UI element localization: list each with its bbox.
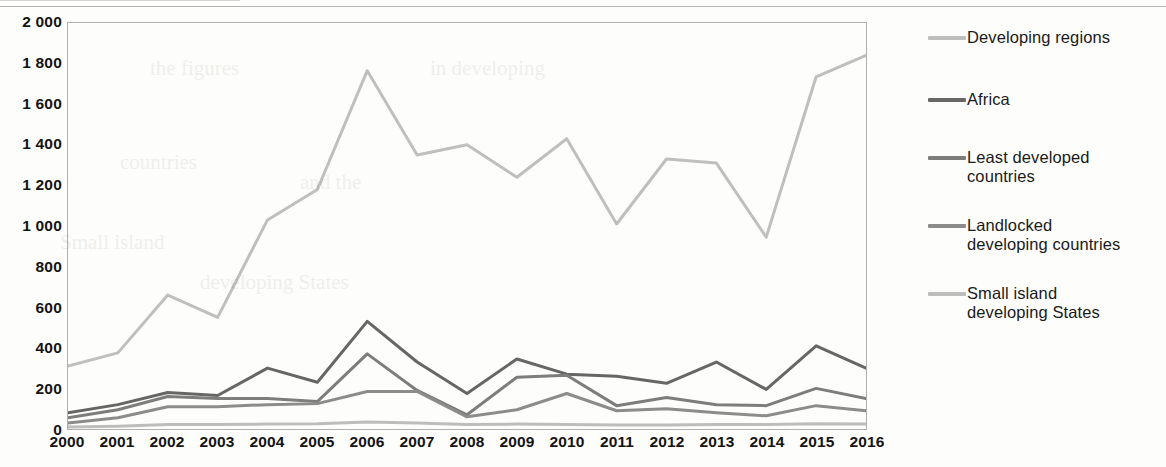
- legend-item-label: Landlocked developing countries: [967, 216, 1120, 253]
- x-axis-tick-label: 2011: [600, 433, 634, 450]
- y-axis-tick-label: 1 400: [4, 137, 62, 153]
- legend-item[interactable]: Africa: [928, 90, 1010, 109]
- x-axis-tick-label: 2003: [200, 433, 235, 450]
- legend-item-label: Developing regions: [967, 28, 1110, 47]
- x-axis-tick-label: 2013: [700, 433, 735, 450]
- y-axis-tick-label: 2 000: [4, 14, 62, 30]
- x-axis-tick-label: 2005: [300, 433, 335, 450]
- y-axis-tick-label: 600: [4, 300, 62, 316]
- x-axis: 2000200120022003200420052006200720082009…: [67, 433, 867, 461]
- y-axis-tick-label: 400: [4, 341, 62, 357]
- series-line: [68, 55, 866, 366]
- legend-item-label: Small island developing States: [967, 284, 1100, 321]
- legend-item[interactable]: Landlocked developing countries: [928, 216, 1120, 253]
- x-axis-tick-label: 2016: [850, 433, 885, 450]
- legend-item-label: Least developed countries: [967, 148, 1090, 185]
- legend-line-swatch: [928, 98, 966, 102]
- y-axis-tick-label: 1 800: [4, 55, 62, 71]
- series-line: [68, 422, 866, 427]
- y-axis-tick-label: 800: [4, 259, 62, 275]
- x-axis-tick-label: 2008: [450, 433, 485, 450]
- series-line: [68, 321, 866, 412]
- legend-line-swatch: [928, 36, 966, 40]
- x-axis-tick-label: 2006: [350, 433, 385, 450]
- legend-item-label: Africa: [967, 90, 1010, 109]
- y-axis-tick-label: 1 000: [4, 218, 62, 234]
- x-axis-tick-label: 2012: [650, 433, 685, 450]
- line-chart-figure: 02004006008001 0001 2001 4001 6001 8002 …: [0, 0, 1166, 467]
- chart-lines: [68, 23, 866, 429]
- legend-item[interactable]: Small island developing States: [928, 284, 1100, 321]
- y-axis-tick-label: 1 600: [4, 96, 62, 112]
- x-axis-tick-label: 2001: [100, 433, 135, 450]
- legend-item[interactable]: Developing regions: [928, 28, 1110, 47]
- x-axis-tick-label: 2009: [500, 433, 535, 450]
- x-axis-tick-label: 2007: [400, 433, 435, 450]
- x-axis-tick-label: 2004: [250, 433, 285, 450]
- y-axis: 02004006008001 0001 2001 4001 6001 8002 …: [0, 0, 62, 467]
- legend-line-swatch: [928, 156, 966, 160]
- series-line: [68, 354, 866, 418]
- x-axis-tick-label: 2014: [750, 433, 785, 450]
- x-axis-tick-label: 2000: [50, 433, 85, 450]
- x-axis-tick-label: 2010: [550, 433, 585, 450]
- legend-line-swatch: [928, 224, 966, 228]
- legend-item[interactable]: Least developed countries: [928, 148, 1090, 185]
- y-axis-tick-label: 200: [4, 381, 62, 397]
- x-axis-tick-label: 2002: [150, 433, 185, 450]
- legend-line-swatch: [928, 292, 966, 296]
- x-axis-tick-label: 2015: [800, 433, 835, 450]
- plot-area: [67, 22, 867, 430]
- y-axis-tick-label: 1 200: [4, 177, 62, 193]
